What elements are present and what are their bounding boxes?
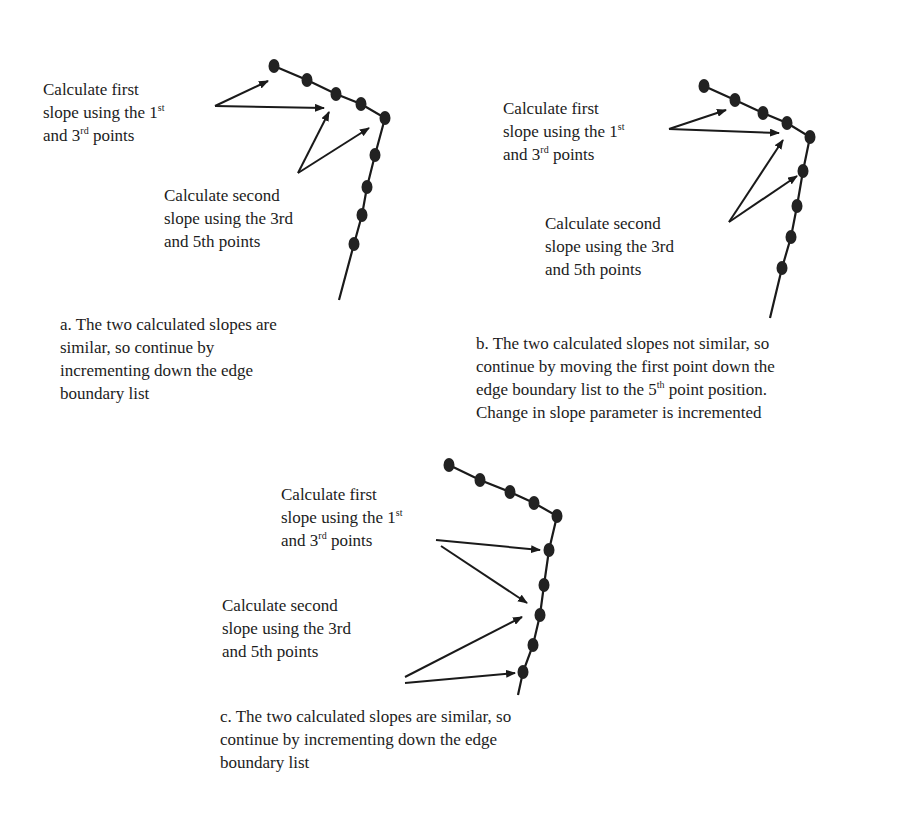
- panel-c-caption: c. The two calculated slopes are similar…: [220, 705, 511, 774]
- boundary-point-icon: [544, 543, 555, 557]
- label-line: and 5th points: [222, 640, 351, 663]
- boundary-point-icon: [380, 111, 391, 125]
- label-line: Calculate first: [43, 78, 164, 101]
- caption-line: continue by incrementing down the edge: [220, 728, 511, 751]
- label-line: and 5th points: [545, 258, 674, 281]
- label-line: slope using the 1st: [43, 101, 164, 124]
- caption-line: incrementing down the edge: [60, 359, 277, 382]
- label-line: Calculate first: [503, 97, 624, 120]
- edge-boundary-diagram-b: [669, 79, 816, 318]
- boundary-point-icon: [535, 608, 546, 622]
- label-line: slope using the 3rd: [222, 617, 351, 640]
- caption-line: b. The two calculated slopes not similar…: [476, 332, 775, 355]
- arrow-icon: [669, 110, 726, 129]
- boundary-point-icon: [370, 148, 381, 162]
- label-line: and 3rd points: [281, 529, 402, 552]
- boundary-point-icon: [475, 473, 486, 487]
- caption-line: boundary list: [220, 751, 511, 774]
- panel-c-second-slope-label: Calculate second slope using the 3rd and…: [222, 594, 351, 663]
- boundary-point-icon: [349, 237, 360, 251]
- edge-boundary-diagram-a: [215, 59, 391, 300]
- boundary-point-icon: [356, 97, 367, 111]
- boundary-point-icon: [302, 73, 313, 87]
- boundary-point-icon: [786, 230, 797, 244]
- boundary-point-icon: [730, 93, 741, 107]
- label-line: and 3rd points: [503, 143, 624, 166]
- label-line: slope using the 1st: [503, 120, 624, 143]
- boundary-point-icon: [269, 59, 280, 73]
- boundary-point-icon: [331, 87, 342, 101]
- boundary-point-icon: [777, 261, 788, 275]
- caption-line: similar, so continue by: [60, 336, 277, 359]
- arrow-icon: [729, 176, 797, 222]
- label-line: Calculate second: [222, 594, 351, 617]
- caption-line: c. The two calculated slopes are similar…: [220, 705, 511, 728]
- arrow-icon: [669, 129, 779, 133]
- label-line: and 5th points: [164, 230, 293, 253]
- caption-line: continue by moving the first point down …: [476, 355, 775, 378]
- label-line: slope using the 3rd: [164, 207, 293, 230]
- boundary-point-icon: [529, 496, 540, 510]
- arrow-icon: [729, 140, 783, 222]
- boundary-point-icon: [518, 665, 529, 679]
- arrow-icon: [405, 673, 515, 683]
- caption-line: edge boundary list to the 5th point posi…: [476, 378, 775, 401]
- boundary-point-icon: [552, 509, 563, 523]
- boundary-point-icon: [539, 578, 550, 592]
- arrow-icon: [436, 540, 540, 550]
- label-line: slope using the 3rd: [545, 235, 674, 258]
- boundary-point-icon: [798, 164, 809, 178]
- label-line: and 3rd points: [43, 124, 164, 147]
- panel-a-first-slope-label: Calculate first slope using the 1st and …: [43, 78, 164, 147]
- caption-line: a. The two calculated slopes are: [60, 313, 277, 336]
- panel-c-first-slope-label: Calculate first slope using the 1st and …: [281, 483, 402, 552]
- boundary-point-icon: [805, 130, 816, 144]
- arrow-icon: [215, 106, 324, 108]
- label-line: Calculate first: [281, 483, 402, 506]
- boundary-point-icon: [758, 106, 769, 120]
- edge-boundary-diagram-c: [405, 458, 563, 695]
- label-line: Calculate second: [545, 212, 674, 235]
- label-line: Calculate second: [164, 184, 293, 207]
- boundary-point-icon: [528, 638, 539, 652]
- panel-b-caption: b. The two calculated slopes not similar…: [476, 332, 775, 424]
- boundary-point-icon: [782, 116, 793, 130]
- arrow-icon: [215, 81, 268, 106]
- arrow-icon: [441, 546, 527, 603]
- boundary-point-icon: [505, 485, 516, 499]
- boundary-point-icon: [792, 199, 803, 213]
- caption-line: boundary list: [60, 382, 277, 405]
- panel-a-second-slope-label: Calculate second slope using the 3rd and…: [164, 184, 293, 253]
- boundary-point-icon: [699, 79, 710, 93]
- boundary-point-icon: [357, 208, 368, 222]
- panel-b-first-slope-label: Calculate first slope using the 1st and …: [503, 97, 624, 166]
- boundary-point-icon: [444, 458, 455, 472]
- arrow-icon: [405, 617, 522, 677]
- panel-a-caption: a. The two calculated slopes are similar…: [60, 313, 277, 405]
- caption-line: Change in slope parameter is incremented: [476, 401, 775, 424]
- boundary-point-icon: [362, 180, 373, 194]
- label-line: slope using the 1st: [281, 506, 402, 529]
- panel-b-second-slope-label: Calculate second slope using the 3rd and…: [545, 212, 674, 281]
